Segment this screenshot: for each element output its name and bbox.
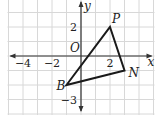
y-tick-label: 2 <box>70 21 77 34</box>
vertex-label-P: P <box>111 12 121 26</box>
x-tick-label: −4 <box>15 57 31 70</box>
coordinate-plane: xyO−4−222−3PNB <box>0 0 158 118</box>
y-axis-arrow-down-icon <box>79 106 84 112</box>
labels: xyO−4−222−3PNB <box>15 0 155 107</box>
vertex-label-B: B <box>56 79 66 93</box>
y-tick-label: −3 <box>61 94 77 107</box>
x-axis-label: x <box>148 55 155 69</box>
vertex-label-N: N <box>128 66 140 80</box>
y-axis-label: y <box>83 0 91 13</box>
x-tick-label: −2 <box>44 57 60 70</box>
y-axis-arrow-up-icon <box>79 1 84 7</box>
origin-label: O <box>70 41 80 55</box>
x-tick-label: 2 <box>107 57 114 70</box>
